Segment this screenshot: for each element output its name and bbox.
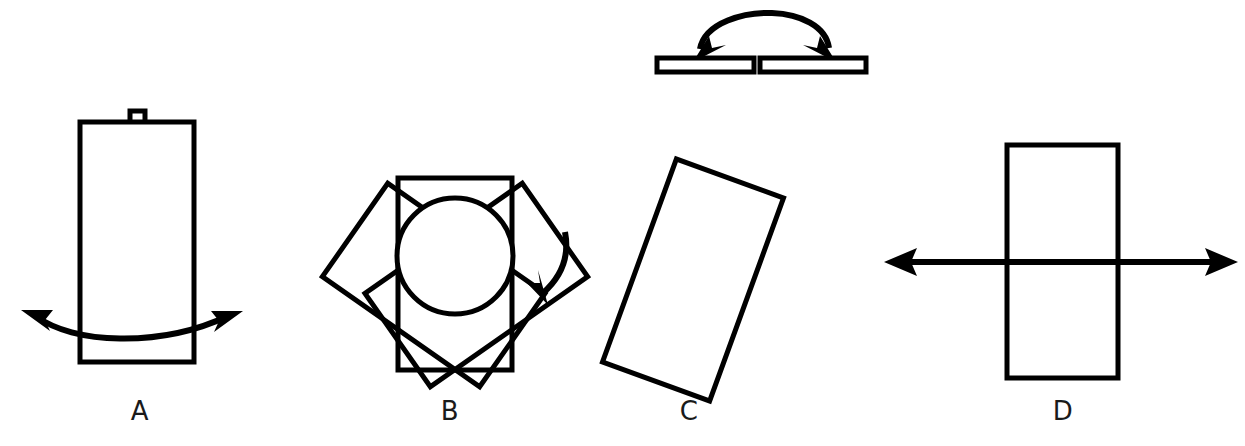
panel-b-circle [397, 198, 513, 314]
panel-c-rectangle [602, 159, 783, 401]
panel-c-label: C [669, 396, 709, 426]
panel-b [322, 178, 587, 387]
panel-d-label: D [1043, 396, 1083, 426]
right-bar-segment [760, 58, 866, 72]
panel-a [21, 111, 243, 362]
left-bar-segment [657, 58, 754, 72]
panel-a-label: A [120, 396, 160, 426]
arc-double-arrow-curve [700, 13, 829, 49]
figure-canvas: A B C D [0, 0, 1245, 446]
panel-c [602, 159, 783, 401]
panel-top [657, 13, 866, 72]
panel-b-label: B [430, 396, 470, 426]
figure-drawing [0, 0, 1245, 446]
panel-a-rectangle [80, 122, 194, 362]
panel-d [884, 145, 1238, 378]
